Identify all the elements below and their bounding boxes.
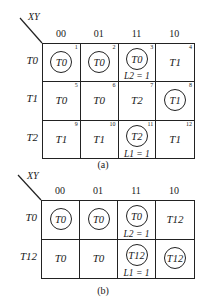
cell-state-wrapper: T1 xyxy=(43,132,80,146)
output-label: L1 = 1 xyxy=(118,268,155,278)
state-table-grid-b: T0T0T0L2 = 1T12T0T0T12L1 = 1T12 xyxy=(41,200,195,279)
cell-state-wrapper: T0 xyxy=(43,51,80,73)
cell-state-wrapper: T0 xyxy=(42,251,79,265)
next-state: T0 xyxy=(93,252,105,264)
next-state: T0 xyxy=(56,94,68,106)
cell-state-wrapper: T1 xyxy=(156,55,194,69)
next-state: T2 xyxy=(131,94,143,106)
next-state: T1 xyxy=(93,133,105,145)
cell-state-wrapper: T0 xyxy=(118,205,155,227)
cell-state-wrapper: T1 xyxy=(156,89,194,111)
next-state: T0 xyxy=(55,252,67,264)
column-header: 10 xyxy=(155,28,193,39)
row-label: T0 xyxy=(7,211,37,223)
row-label: T12 xyxy=(7,250,37,262)
cell-state-wrapper: T0 xyxy=(81,51,118,73)
output-label: L2 = 1 xyxy=(118,229,155,239)
table-cell: T0 xyxy=(42,201,80,240)
cell-state-wrapper: T0 xyxy=(81,93,118,107)
state-table-grid-a: T01T02T03L2 = 1T14T05T06T27T18T19T110T21… xyxy=(42,43,195,159)
table-cell: T0 xyxy=(80,240,118,279)
column-header: 01 xyxy=(80,28,118,39)
stable-state-circle: T0 xyxy=(88,208,110,230)
column-header: 10 xyxy=(155,185,193,196)
table-cell: T112 xyxy=(156,121,194,159)
output-label: L1 = 1 xyxy=(119,149,156,159)
cell-number: 12 xyxy=(186,121,192,128)
table-cell: T0 xyxy=(80,201,118,240)
next-state: T1 xyxy=(169,56,181,68)
table-cell: T12L1 = 1 xyxy=(118,240,156,279)
cell-state-wrapper: T0 xyxy=(80,251,117,265)
cell-state-wrapper: T12 xyxy=(156,212,194,226)
stable-state-circle: T0 xyxy=(126,48,148,70)
column-header: 00 xyxy=(42,28,80,39)
column-header: 11 xyxy=(118,28,156,39)
row-label: T1 xyxy=(8,92,38,104)
figure-caption: (a) xyxy=(0,159,206,170)
stable-state-circle: T2 xyxy=(126,125,148,147)
table-cell: T01 xyxy=(43,44,81,82)
table-cell: T0 xyxy=(42,240,80,279)
table-cell: T0L2 = 1 xyxy=(118,201,156,240)
cell-state-wrapper: T0 xyxy=(43,93,80,107)
table-cell: T12 xyxy=(156,201,194,240)
cell-state-wrapper: T12 xyxy=(156,247,194,269)
row-label: T2 xyxy=(8,131,38,143)
cell-state-wrapper: T1 xyxy=(81,132,118,146)
table-cell: T05 xyxy=(43,82,81,120)
axis-label-xy: XY xyxy=(28,11,40,22)
stable-state-circle: T0 xyxy=(50,208,72,230)
cell-state-wrapper: T0 xyxy=(80,208,117,230)
cell-number: 3 xyxy=(150,44,153,51)
stable-state-circle: T1 xyxy=(164,89,186,111)
cell-number: 8 xyxy=(189,82,192,89)
table-cell: T18 xyxy=(156,82,194,120)
cell-state-wrapper: T2 xyxy=(119,93,156,107)
cell-number: 2 xyxy=(113,44,116,51)
cell-number: 7 xyxy=(150,82,153,89)
figure-caption: (b) xyxy=(0,285,206,296)
cell-state-wrapper: T2 xyxy=(119,125,156,147)
table-cell: T12 xyxy=(156,240,194,279)
cell-state-wrapper: T12 xyxy=(118,244,155,266)
table-cell: T03L2 = 1 xyxy=(119,44,157,82)
next-state: T1 xyxy=(169,133,181,145)
cell-number: 11 xyxy=(147,121,153,128)
stable-state-circle: T12 xyxy=(126,244,148,266)
table-cell: T06 xyxy=(81,82,119,120)
cell-number: 1 xyxy=(75,44,78,51)
cell-state-wrapper: T0 xyxy=(119,48,156,70)
table-cell: T19 xyxy=(43,121,81,159)
table-cell: T02 xyxy=(81,44,119,82)
stable-state-circle: T0 xyxy=(50,51,72,73)
cell-number: 10 xyxy=(110,121,116,128)
cell-number: 5 xyxy=(75,82,78,89)
cell-state-wrapper: T1 xyxy=(156,132,194,146)
next-state: T1 xyxy=(56,133,68,145)
table-cell: T211L1 = 1 xyxy=(119,121,157,159)
table-cell: T27 xyxy=(119,82,157,120)
cell-number: 9 xyxy=(75,121,78,128)
table-cell: T14 xyxy=(156,44,194,82)
cell-state-wrapper: T0 xyxy=(42,208,79,230)
column-header: 00 xyxy=(41,185,79,196)
cell-number: 6 xyxy=(113,82,116,89)
next-state: T12 xyxy=(166,213,183,225)
table-cell: T110 xyxy=(81,121,119,159)
cell-number: 4 xyxy=(189,44,192,51)
stable-state-circle: T0 xyxy=(126,205,148,227)
stable-state-circle: T0 xyxy=(88,51,110,73)
column-header: 01 xyxy=(79,185,117,196)
column-header: 11 xyxy=(117,185,155,196)
next-state: T0 xyxy=(93,94,105,106)
axis-label-xy: XY xyxy=(27,170,39,181)
row-label: T0 xyxy=(8,54,38,66)
output-label: L2 = 1 xyxy=(119,71,156,81)
stable-state-circle: T12 xyxy=(164,247,186,269)
